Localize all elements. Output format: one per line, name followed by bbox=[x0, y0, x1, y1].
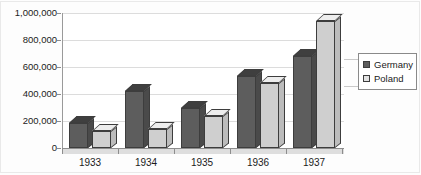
bar-face bbox=[181, 108, 200, 148]
y-tick-label: 400,000 bbox=[1, 89, 57, 99]
legend-item-germany[interactable]: Germany bbox=[363, 57, 412, 71]
y-tick-label: 600,000 bbox=[1, 62, 57, 72]
y-tick-mark bbox=[57, 148, 61, 149]
plot-floor bbox=[62, 148, 344, 154]
bar-side bbox=[223, 111, 229, 148]
y-tick-label: 800,000 bbox=[1, 35, 57, 45]
chart-legend: Germany Poland bbox=[358, 53, 417, 90]
bar-poland-1936 bbox=[260, 83, 279, 148]
legend-item-poland[interactable]: Poland bbox=[363, 71, 412, 85]
bar-face bbox=[293, 56, 312, 148]
bar-face bbox=[125, 91, 144, 148]
x-tick-mark bbox=[118, 149, 119, 154]
y-tick-mark bbox=[57, 40, 61, 41]
bar-group-1933 bbox=[69, 13, 125, 148]
bar-germany-1937 bbox=[293, 56, 312, 148]
bar-poland-1937 bbox=[316, 21, 335, 148]
bar-group-1935 bbox=[181, 13, 237, 148]
y-tick-label: 0 bbox=[1, 143, 57, 153]
bar-poland-1935 bbox=[204, 116, 223, 148]
x-tick-mark bbox=[286, 149, 287, 154]
bar-germany-1935 bbox=[181, 108, 200, 148]
x-tick-label-1935: 1935 bbox=[179, 157, 225, 169]
legend-label-poland: Poland bbox=[374, 73, 404, 84]
bar-face bbox=[69, 123, 88, 148]
x-tick-mark bbox=[342, 149, 343, 154]
x-tick-mark bbox=[174, 149, 175, 154]
x-tick-mark bbox=[62, 149, 63, 154]
y-tick-mark bbox=[57, 13, 61, 14]
legend-leader-line bbox=[344, 59, 358, 60]
x-axis: 1933 1934 1935 1936 1937 bbox=[62, 155, 344, 173]
bar-poland-1934 bbox=[148, 129, 167, 148]
legend-label-germany: Germany bbox=[374, 59, 413, 70]
x-tick-mark bbox=[230, 149, 231, 154]
bar-chart: 1,000,000 800,000 600,000 400,000 200,00… bbox=[0, 0, 421, 175]
legend-leader-line bbox=[344, 86, 358, 87]
x-tick-label-1937: 1937 bbox=[291, 157, 337, 169]
bar-face bbox=[92, 131, 111, 148]
y-tick-label: 200,000 bbox=[1, 116, 57, 126]
bar-side bbox=[335, 16, 341, 148]
y-tick-mark bbox=[57, 67, 61, 68]
bar-face bbox=[237, 76, 256, 148]
bar-side bbox=[279, 78, 285, 148]
germany-swatch-icon bbox=[363, 61, 370, 68]
bar-group-1934 bbox=[125, 13, 181, 148]
plot-area bbox=[62, 13, 344, 148]
bar-germany-1936 bbox=[237, 76, 256, 148]
x-tick-label-1934: 1934 bbox=[123, 157, 169, 169]
x-tick-label-1936: 1936 bbox=[235, 157, 281, 169]
y-tick-label: 1,000,000 bbox=[1, 8, 57, 18]
bar-face bbox=[148, 129, 167, 148]
poland-swatch-icon bbox=[363, 75, 370, 82]
bar-germany-1934 bbox=[125, 91, 144, 148]
y-tick-mark bbox=[57, 94, 61, 95]
bar-poland-1933 bbox=[92, 131, 111, 148]
bar-face bbox=[316, 21, 335, 148]
bar-group-1937 bbox=[293, 13, 349, 148]
x-tick-label-1933: 1933 bbox=[67, 157, 113, 169]
y-tick-mark bbox=[57, 121, 61, 122]
bar-face bbox=[204, 116, 223, 148]
bar-group-1936 bbox=[237, 13, 293, 148]
bar-face bbox=[260, 83, 279, 148]
bar-germany-1933 bbox=[69, 123, 88, 148]
y-axis: 1,000,000 800,000 600,000 400,000 200,00… bbox=[0, 0, 57, 175]
